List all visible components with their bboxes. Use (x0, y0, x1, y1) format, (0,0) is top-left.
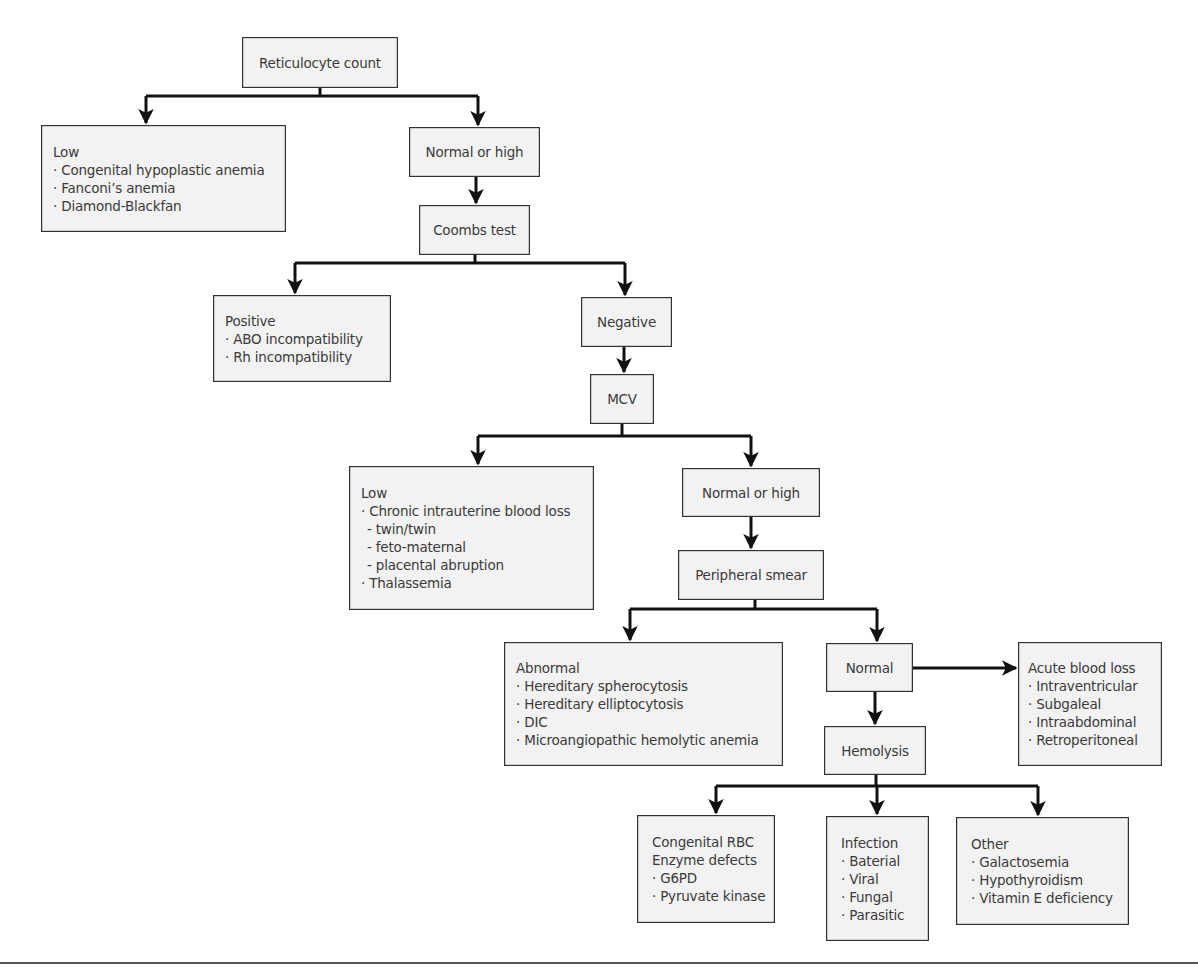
node-infection: Infection · Baterial · Viral · Fungal · … (826, 816, 929, 941)
edge-hemolysis-split (716, 775, 1038, 786)
node-acute-blood-loss: Acute blood loss · Intraventricular · Su… (1018, 642, 1162, 766)
node-item: Enzyme defects (652, 851, 774, 869)
node-item: · Viral (841, 870, 928, 888)
node-item: · Baterial (841, 852, 928, 870)
node-smear-normal: Normal (826, 643, 913, 692)
edge-coombs-split (295, 255, 625, 263)
flowchart-canvas: Reticulocyte count Low · Congenital hypo… (0, 0, 1198, 978)
node-item: · Hereditary spherocytosis (516, 677, 782, 695)
node-title: Low (53, 143, 285, 161)
node-coombs-positive: Positive · ABO incompatibility · Rh inco… (213, 295, 391, 382)
node-retic-low: Low · Congenital hypoplastic anemia · Fa… (41, 125, 286, 232)
node-item: · Pyruvate kinase (652, 887, 774, 905)
node-smear-abnormal: Abnormal · Hereditary spherocytosis · He… (504, 642, 783, 766)
node-item: · Fungal (841, 888, 928, 906)
node-item: · Fanconi’s anemia (53, 179, 285, 197)
node-title: Other (971, 835, 1128, 853)
edge-retic-split (146, 88, 478, 96)
node-title: Normal or high (426, 143, 524, 161)
node-title: Coombs test (433, 221, 516, 239)
node-title: Congenital RBC (652, 833, 774, 851)
node-item: · Galactosemia (971, 853, 1128, 871)
node-item: · DIC (516, 713, 782, 731)
node-title: Normal (846, 659, 894, 677)
node-mcv-low: Low · Chronic intrauterine blood loss - … (349, 466, 594, 610)
node-item: · Thalassemia (361, 574, 593, 592)
node-item: · ABO incompatibility (225, 330, 390, 348)
node-mcv: MCV (590, 374, 654, 424)
node-reticulocyte-count: Reticulocyte count (242, 37, 398, 88)
node-title: Acute blood loss (1028, 659, 1161, 677)
node-item: · Subgaleal (1028, 695, 1161, 713)
node-subitem: - placental abruption (361, 556, 593, 574)
node-title: Normal or high (702, 484, 800, 502)
caption-divider (0, 962, 1198, 964)
node-item: · G6PD (652, 869, 774, 887)
node-retic-normal-high: Normal or high (409, 127, 540, 177)
node-subitem: - feto-maternal (361, 538, 593, 556)
edge-smear-split (630, 600, 877, 609)
node-item: · Vitamin E deficiency (971, 889, 1128, 907)
node-title: Positive (225, 312, 390, 330)
node-congenital-rbc-enzyme-defects: Congenital RBC Enzyme defects · G6PD · P… (637, 815, 775, 923)
node-item: · Rh incompatibility (225, 348, 390, 366)
node-title: Abnormal (516, 659, 782, 677)
node-mcv-normal-high: Normal or high (682, 468, 820, 517)
node-title: Reticulocyte count (259, 54, 381, 72)
node-item: · Intraabdominal (1028, 713, 1161, 731)
node-coombs-negative: Negative (581, 297, 672, 347)
node-item: · Diamond-Blackfan (53, 197, 285, 215)
node-title: Negative (597, 313, 656, 331)
node-item: · Chronic intrauterine blood loss (361, 502, 593, 520)
node-hemolysis: Hemolysis (824, 726, 926, 775)
node-title: Low (361, 484, 593, 502)
node-title: Infection (841, 834, 928, 852)
node-title: MCV (607, 390, 637, 408)
node-item: · Retroperitoneal (1028, 731, 1161, 749)
node-title: Hemolysis (841, 742, 909, 760)
node-item: · Microangiopathic hemolytic anemia (516, 731, 782, 749)
node-item: · Intraventricular (1028, 677, 1161, 695)
node-item: · Hypothyroidism (971, 871, 1128, 889)
edge-mcv-split (478, 424, 751, 436)
node-subitem: - twin/twin (361, 520, 593, 538)
node-coombs-test: Coombs test (419, 205, 530, 255)
node-item: · Parasitic (841, 906, 928, 924)
node-peripheral-smear: Peripheral smear (678, 550, 824, 600)
node-item: · Hereditary elliptocytosis (516, 695, 782, 713)
node-other: Other · Galactosemia · Hypothyroidism · … (956, 817, 1129, 925)
node-item: · Congenital hypoplastic anemia (53, 161, 285, 179)
node-title: Peripheral smear (695, 566, 807, 584)
